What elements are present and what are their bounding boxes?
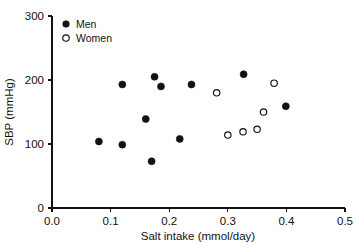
x-tick-label: 0.0	[44, 215, 60, 227]
data-point-men	[282, 103, 289, 110]
legend-marker-filled-circle-icon	[63, 21, 70, 28]
legend-label: Men	[76, 18, 97, 30]
y-tick-label: 0	[38, 202, 44, 214]
legend-marker-open-circle-icon	[63, 35, 69, 41]
data-point-men	[188, 81, 195, 88]
plot-canvas: 0100200300 0.00.10.20.30.40.5 MenWomen S…	[0, 0, 354, 246]
y-tick-label: 300	[25, 10, 44, 22]
y-tick-label: 200	[25, 74, 44, 86]
series-women-points	[213, 80, 277, 138]
x-tick-label: 0.5	[337, 215, 353, 227]
data-point-men	[119, 81, 126, 88]
x-tick-label: 0.4	[278, 215, 295, 227]
data-point-women	[213, 90, 219, 96]
x-axis-title: Salt intake (mmol/day)	[141, 230, 256, 242]
data-point-men	[119, 141, 126, 148]
data-point-women	[260, 109, 266, 115]
data-point-men	[240, 71, 247, 78]
data-point-men	[95, 138, 102, 145]
x-axis-ticks: 0.00.10.20.30.40.5	[44, 208, 353, 227]
data-point-women	[254, 126, 260, 132]
data-point-women	[240, 129, 246, 135]
data-point-women	[225, 132, 231, 138]
data-point-men	[176, 135, 183, 142]
x-tick-label: 0.2	[161, 215, 177, 227]
data-point-men	[157, 83, 164, 90]
x-tick-label: 0.3	[220, 215, 236, 227]
y-axis-title: SBP (mmHg)	[3, 78, 15, 146]
data-point-men	[148, 158, 155, 165]
scatter-plot-figure: 0100200300 0.00.10.20.30.40.5 MenWomen S…	[0, 0, 354, 246]
legend: MenWomen	[63, 18, 112, 44]
data-point-men	[142, 116, 149, 123]
y-axis-ticks: 0100200300	[25, 10, 52, 214]
data-point-women	[271, 80, 277, 86]
x-tick-label: 0.1	[103, 215, 119, 227]
data-point-men	[151, 73, 158, 80]
y-tick-label: 100	[25, 138, 44, 150]
series-men-points	[95, 71, 289, 165]
legend-label: Women	[76, 32, 112, 44]
axes	[52, 16, 345, 208]
